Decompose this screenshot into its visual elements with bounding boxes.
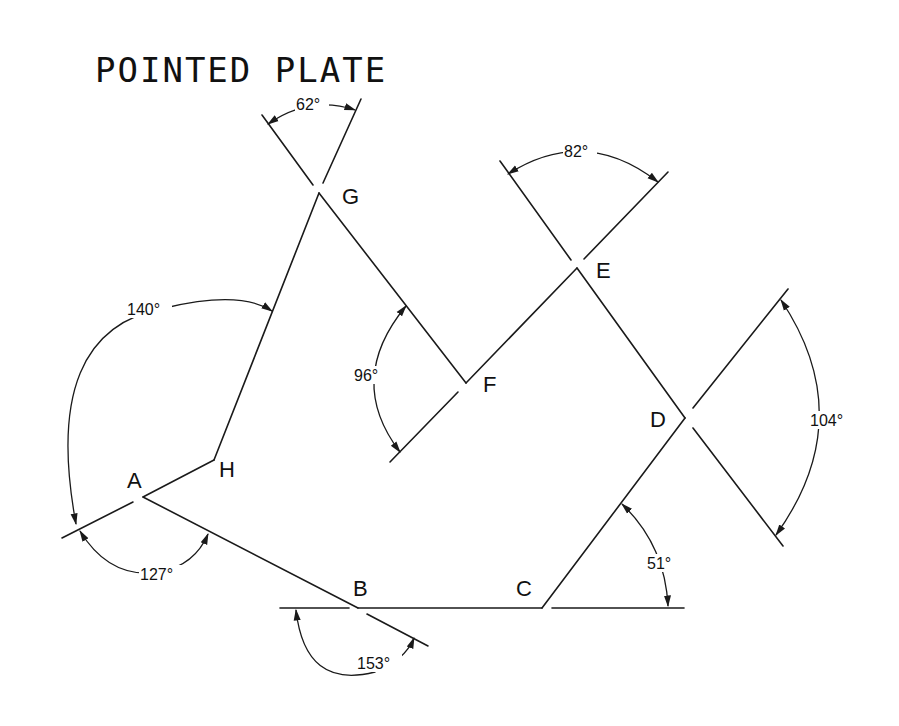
angle-label-a-inner: 127° [140, 566, 173, 583]
vertex-label-h: H [219, 457, 235, 482]
ext-d-down [693, 428, 783, 546]
angle-label-f: 96° [354, 367, 378, 384]
vertex-label-e: E [596, 258, 611, 283]
vertex-label-f: F [483, 372, 496, 397]
edge-f-e [466, 268, 577, 383]
vertex-label-c: C [516, 576, 532, 601]
dim-arc-a-outer [68, 300, 272, 524]
edge-e-d [577, 268, 685, 418]
vertex-label-d: D [650, 407, 666, 432]
angle-label-b: 153° [357, 655, 390, 672]
angle-label-a-outer: 140° [127, 301, 160, 318]
vertex-labels: A B C D E F G H [127, 184, 666, 601]
drawing-title: POINTED PLATE [95, 50, 387, 90]
ext-d-up [693, 289, 788, 408]
ext-e-right [584, 172, 668, 259]
vertex-label-a: A [127, 468, 142, 493]
vertex-label-g: G [342, 184, 359, 209]
angle-label-d: 104° [810, 412, 843, 429]
angle-label-e: 82° [564, 143, 588, 160]
edge-b-a [143, 497, 358, 608]
angle-label-c: 51° [647, 555, 671, 572]
ext-e-left [500, 161, 571, 260]
angle-label-g: 62° [296, 96, 320, 113]
ext-g-left [262, 115, 313, 185]
edge-g-f [319, 193, 466, 383]
edge-h-g [214, 193, 319, 460]
edge-a-h [143, 460, 214, 497]
edge-d-c [542, 418, 685, 608]
plate-outline [143, 193, 685, 608]
vertex-label-b: B [353, 576, 368, 601]
ext-b-right [367, 614, 428, 646]
pointed-plate-drawing: POINTED PLATE [0, 0, 899, 726]
